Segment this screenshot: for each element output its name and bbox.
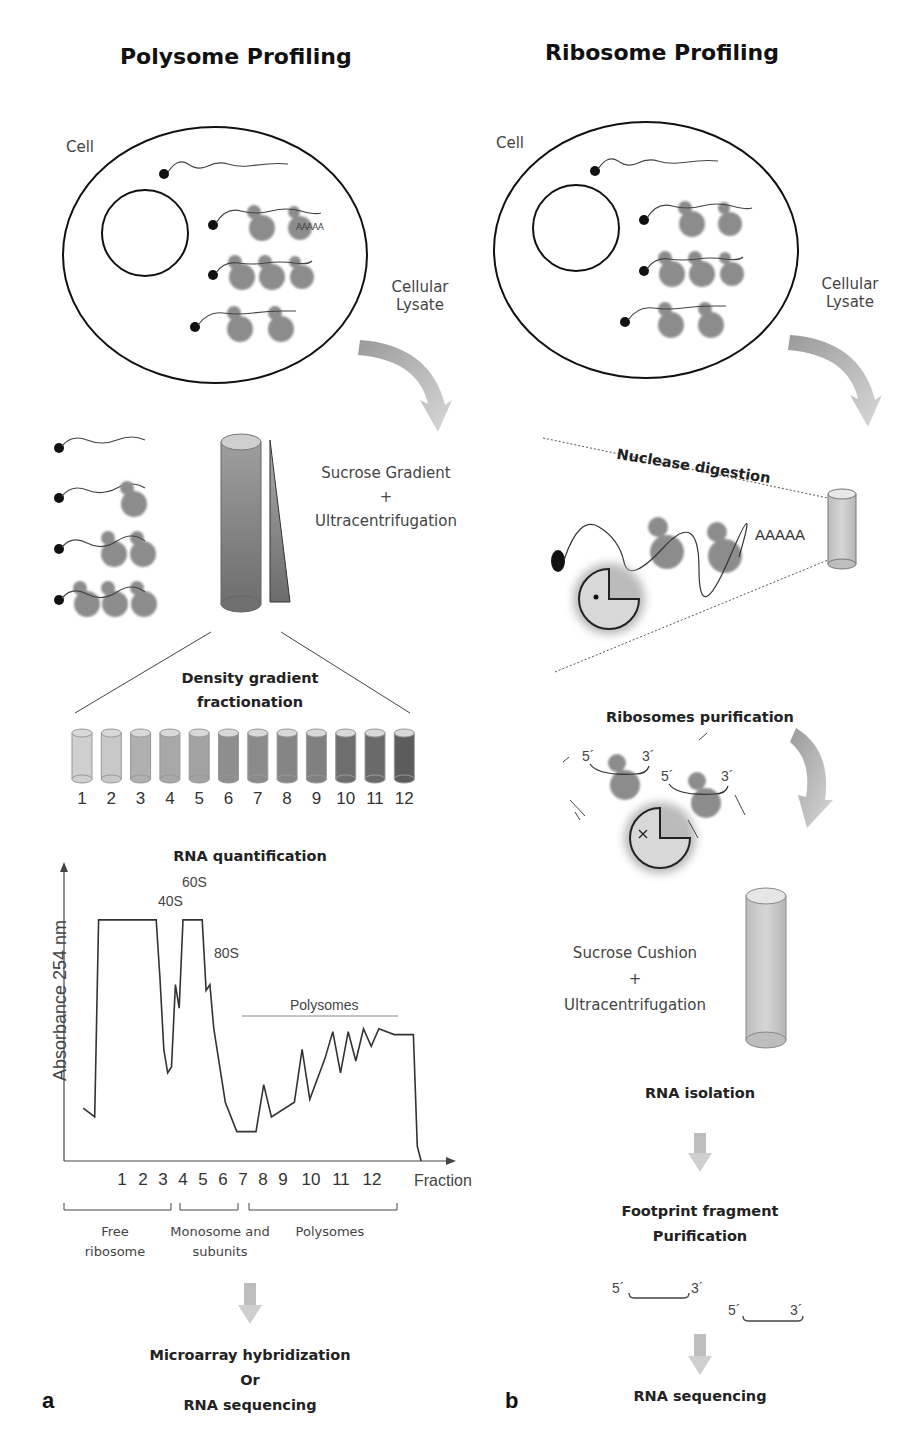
nuclease-polya: AAAAA — [755, 526, 805, 543]
ribosome-purification-label: Ribosomes purification — [600, 709, 800, 725]
down-arrow-a-icon — [238, 1283, 262, 1324]
x-tick-label: 11 — [329, 1170, 353, 1190]
fraction-tube-label: 3 — [129, 789, 153, 809]
x-tick-label: 9 — [271, 1170, 295, 1190]
panel-b-title: Ribosome Profiling — [545, 40, 779, 65]
group-label-line2: subunits — [160, 1242, 280, 1262]
gradient-plus: + — [296, 485, 476, 509]
peak-label-40s: 40S — [158, 893, 183, 909]
fraction-tube-label: 6 — [217, 789, 241, 809]
x-tick-label: 10 — [299, 1170, 323, 1190]
fractionation-line2: fractionation — [150, 690, 350, 714]
fraction-tube-label: 8 — [275, 789, 299, 809]
gradient-tube — [221, 434, 290, 612]
fraction-tube-label: 10 — [334, 789, 358, 809]
lysate-arrow-a-icon — [358, 340, 452, 432]
group-polysomes: Polysomes — [280, 1222, 380, 1242]
footprint-line2: Purification — [600, 1224, 800, 1249]
three-prime-1: 3´ — [642, 748, 654, 764]
fraction-tube-label: 2 — [99, 789, 123, 809]
panel-letter-b: b — [505, 1388, 518, 1414]
fractionation-label: Density gradient fractionation — [150, 666, 350, 714]
final-step-b: RNA sequencing — [600, 1388, 800, 1404]
fraction-tube-label: 11 — [363, 789, 387, 809]
cell-label-b: Cell — [496, 134, 524, 152]
cell-b — [494, 122, 798, 378]
down-arrow-b1-icon — [688, 1133, 712, 1172]
lysate-line2: Lysate — [810, 293, 890, 311]
final-step-a: Microarray hybridization Or RNA sequenci… — [130, 1343, 370, 1418]
cushion-tube — [746, 888, 786, 1048]
group-monosome: Monosome and subunits — [160, 1222, 280, 1262]
group-free-ribosome: Free ribosome — [60, 1222, 170, 1262]
final-a-line1: Microarray hybridization — [130, 1343, 370, 1368]
footprint-three-prime-2: 3´ — [790, 1302, 802, 1318]
lysate-line1: Cellular — [380, 278, 460, 296]
sucrose-gradient-label: Sucrose Gradient + Ultracentrifugation — [296, 461, 476, 533]
footprint-fragment-1 — [629, 1293, 689, 1298]
panel-a-title: Polysome Profiling — [120, 44, 352, 69]
final-a-line3: RNA sequencing — [130, 1393, 370, 1418]
fraction-tube-label: 1 — [70, 789, 94, 809]
cushion-plus: + — [545, 966, 725, 992]
panel-letter-a: a — [42, 1388, 54, 1414]
lysate-line2: Lysate — [380, 296, 460, 314]
fraction-tube-label: 5 — [187, 789, 211, 809]
footprint-label: Footprint fragment Purification — [600, 1199, 800, 1249]
fraction-tubes — [72, 729, 414, 783]
lysate-line1: Cellular — [810, 275, 890, 293]
lysate-label-b: Cellular Lysate — [810, 275, 890, 311]
lysate-arrow-b-icon — [788, 335, 882, 427]
lysate-label-a: Cellular Lysate — [380, 278, 460, 314]
down-arrow-b2-icon — [688, 1334, 712, 1375]
group-label-line1: Polysomes — [280, 1222, 380, 1242]
group-label-line1: Monosome and — [160, 1222, 280, 1242]
footprint-five-prime-1: 5´ — [612, 1280, 624, 1296]
group-label-line2: ribosome — [60, 1242, 170, 1262]
fractionation-line1: Density gradient — [150, 666, 350, 690]
peak-label-60s: 60S — [182, 874, 207, 890]
polya-a-1: AAAAA — [296, 222, 323, 232]
x-tick-label: 12 — [360, 1170, 384, 1190]
peak-label-polysomes: Polysomes — [290, 997, 358, 1013]
fraction-tube-label: 9 — [304, 789, 328, 809]
cell-label-a: Cell — [66, 138, 94, 156]
five-prime-1: 5´ — [582, 748, 594, 764]
cushion-line2: Ultracentrifugation — [545, 992, 725, 1018]
fraction-tube-label: 4 — [158, 789, 182, 809]
footprint-five-prime-2: 5´ — [728, 1302, 740, 1318]
mrna-species — [54, 437, 157, 617]
five-prime-2: 5´ — [661, 768, 673, 784]
footprint-line1: Footprint fragment — [600, 1199, 800, 1224]
group-label-line1: Free — [60, 1222, 170, 1242]
three-prime-2: 3´ — [721, 768, 733, 784]
fraction-tube-label: 12 — [392, 789, 416, 809]
footprint-three-prime-1: 3´ — [691, 1280, 703, 1296]
purification-arrow-icon — [790, 728, 833, 828]
absorbance-chart — [60, 862, 456, 1210]
fraction-tube-label: 7 — [246, 789, 270, 809]
peak-label-80s: 80S — [214, 945, 239, 961]
cushion-line1: Sucrose Cushion — [545, 940, 725, 966]
sucrose-cushion-label: Sucrose Cushion + Ultracentrifugation — [545, 940, 725, 1018]
chart-xlabel: Fraction — [414, 1172, 472, 1190]
chart-ylabel: Absorbance 254 nm — [50, 901, 71, 1101]
gradient-line1: Sucrose Gradient — [296, 461, 476, 485]
rna-isolation-label: RNA isolation — [620, 1085, 780, 1101]
final-a-line2: Or — [130, 1368, 370, 1393]
cell-a — [63, 127, 367, 383]
gradient-line2: Ultracentrifugation — [296, 509, 476, 533]
rna-quantification-title: RNA quantification — [150, 848, 350, 864]
